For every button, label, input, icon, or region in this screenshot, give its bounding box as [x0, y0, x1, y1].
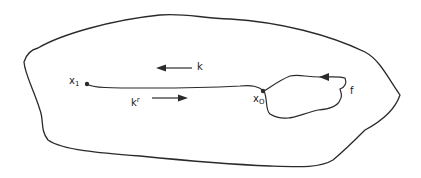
label-x1-sub: 1	[75, 80, 79, 88]
loop-f	[264, 75, 346, 118]
path-x1-x0	[87, 84, 264, 91]
label-kr: kr	[131, 98, 140, 108]
diagram-svg	[0, 0, 421, 178]
arrow-kr-head-icon	[178, 95, 188, 102]
node-x0-dot	[261, 89, 265, 93]
label-kr-base: k	[131, 97, 137, 108]
region-boundary	[24, 15, 400, 167]
label-x0: xO	[253, 94, 264, 104]
label-kr-sup: r	[137, 96, 140, 104]
label-f: f	[350, 86, 354, 96]
arrow-k-head-icon	[156, 65, 166, 72]
node-x1-dot	[85, 82, 89, 86]
loop-arrowhead-icon	[319, 73, 329, 81]
label-k: k	[197, 62, 203, 72]
diagram-canvas: x1 xO k kr f	[0, 0, 421, 178]
label-x0-sub: O	[259, 98, 265, 106]
label-x1: x1	[69, 76, 79, 86]
